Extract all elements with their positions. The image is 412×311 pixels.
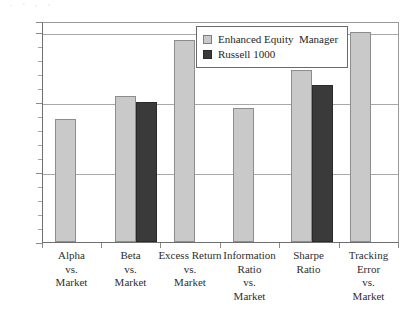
x-tick-mark (160, 243, 161, 248)
x-category-line: Sharpe (279, 249, 338, 263)
x-category-line: vs. (42, 263, 101, 277)
legend-item-enhanced-equity-manager: Enhanced Equity Manager (203, 32, 341, 46)
x-category-label-tracking-error: Tracking Error vs. Market (339, 249, 398, 303)
legend-item-russell-1000: Russell 1000 (203, 47, 341, 61)
x-tick-mark (279, 243, 280, 248)
bar-sharpe-ratio-russell-1000 (312, 85, 333, 242)
bar-information-ratio-enhanced-equity-manager (233, 108, 254, 242)
scan-artifact (6, 2, 58, 9)
x-category-line: vs. (101, 263, 160, 277)
x-tick-mark (398, 243, 399, 248)
bar-beta-russell-1000 (136, 102, 157, 242)
x-category-label-excess-return: Excess Return vs. Market (157, 249, 223, 290)
bar-beta-enhanced-equity-manager (115, 96, 136, 242)
bar-excess-return-enhanced-equity-manager (174, 40, 195, 242)
bar-tracking-error-enhanced-equity-manager (350, 32, 371, 242)
x-tick-mark (339, 243, 340, 248)
x-category-line: Ratio (220, 263, 279, 277)
x-category-line: Tracking (339, 249, 398, 263)
x-category-label-alpha: Alpha vs. Market (42, 249, 101, 290)
gridline-0_5 (43, 174, 398, 175)
x-category-line: Beta (101, 249, 160, 263)
x-category-label-sharpe-ratio: Sharpe Ratio (279, 249, 338, 276)
legend-swatch-icon-enhanced-equity-manager (203, 35, 212, 44)
x-category-line: Market (339, 290, 398, 304)
bar-chart: 1.6 1.5 1 0.5 0 (0, 0, 412, 311)
x-tick-mark (42, 243, 43, 248)
x-category-line: vs. (220, 276, 279, 290)
x-category-line: Excess Return (157, 249, 223, 263)
x-category-line: Market (157, 276, 223, 290)
x-category-label-beta: Beta vs. Market (101, 249, 160, 290)
x-tick-mark (220, 243, 221, 248)
x-category-line: Market (42, 276, 101, 290)
x-category-line: Market (101, 276, 160, 290)
x-category-line: Ratio (279, 263, 338, 277)
x-category-line: Error (339, 263, 398, 277)
x-category-line: Information (220, 249, 279, 263)
legend-swatch-icon-russell-1000 (203, 50, 212, 59)
bar-alpha-enhanced-equity-manager (55, 119, 76, 242)
chart-legend: Enhanced Equity Manager Russell 1000 (196, 26, 348, 68)
gridline-1_0 (43, 104, 398, 105)
x-category-label-information-ratio: Information Ratio vs. Market (220, 249, 279, 303)
x-category-line: vs. (339, 276, 398, 290)
x-tick-mark (101, 243, 102, 248)
x-category-line: vs. (157, 263, 223, 277)
bar-sharpe-ratio-enhanced-equity-manager (291, 70, 312, 242)
legend-label: Russell 1000 (218, 49, 275, 60)
x-category-line: Market (220, 290, 279, 304)
legend-label: Enhanced Equity Manager (218, 34, 338, 45)
x-category-line: Alpha (42, 249, 101, 263)
